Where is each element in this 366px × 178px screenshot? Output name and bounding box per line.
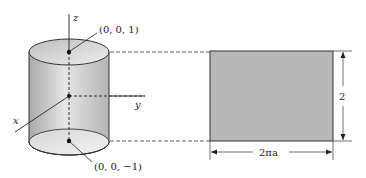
height-dimension: 2 [333,51,352,141]
y-axis-label: y [134,99,141,110]
arrow-left-icon [211,150,217,155]
cylinder-unrolling-diagram: z y x (0, 0, 1) (0, 0, −1) 2 2πa [0,0,366,178]
width-label: 2πa [259,147,278,158]
arrow-right-icon [326,150,332,155]
arrow-up-icon [341,52,346,58]
unrolled-rectangle [210,51,333,141]
top-point-label: (0, 0, 1) [99,24,139,35]
origin-point [67,94,71,98]
projection-lines [110,52,210,141]
bottom-point-label: (0, 0, −1) [94,161,142,172]
z-axis-label: z [72,12,79,23]
width-dimension: 2πa [210,141,333,160]
height-label: 2 [339,91,345,102]
x-axis-label: x [13,115,19,126]
arrow-down-icon [341,134,346,140]
